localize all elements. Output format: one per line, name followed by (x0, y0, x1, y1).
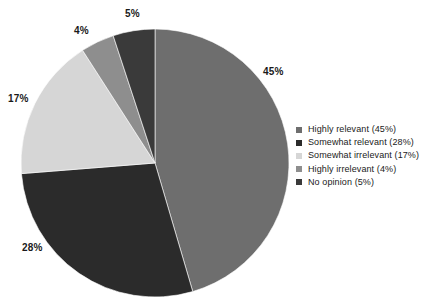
legend-item-label: No opinion (5%) (308, 178, 374, 187)
chart-legend: Highly relevant (45%) Somewhat relevant … (296, 123, 436, 189)
legend-item-label: Somewhat relevant (28%) (308, 138, 414, 147)
legend-item-label: Somewhat irrelevant (17%) (308, 151, 419, 160)
legend-item-label: Highly irrelevant (4%) (308, 165, 396, 174)
square-swatch-icon (296, 153, 302, 159)
square-swatch-icon (296, 127, 302, 133)
slice-label-no-opinion: 5% (125, 8, 140, 19)
slice-label-somewhat-irrelevant: 17% (8, 93, 29, 104)
legend-item-highly-irrelevant[interactable]: Highly irrelevant (4%) (296, 163, 436, 176)
pie-slices (21, 29, 289, 297)
pie-chart-canvas (0, 0, 300, 304)
legend-item-label: Highly relevant (45%) (308, 125, 396, 134)
square-swatch-icon (296, 179, 302, 185)
square-swatch-icon (296, 166, 302, 172)
square-swatch-icon (296, 140, 302, 146)
legend-item-somewhat-irrelevant[interactable]: Somewhat irrelevant (17%) (296, 149, 436, 162)
pie-chart: 45% 28% 17% 4% 5% Highly relevant (45%) … (0, 0, 439, 304)
slice-label-somewhat-relevant: 28% (22, 242, 43, 253)
legend-item-highly-relevant[interactable]: Highly relevant (45%) (296, 123, 436, 136)
slice-label-highly-irrelevant: 4% (74, 25, 89, 36)
legend-item-somewhat-relevant[interactable]: Somewhat relevant (28%) (296, 136, 436, 149)
legend-item-no-opinion[interactable]: No opinion (5%) (296, 176, 436, 189)
slice-label-highly-relevant: 45% (263, 66, 284, 77)
